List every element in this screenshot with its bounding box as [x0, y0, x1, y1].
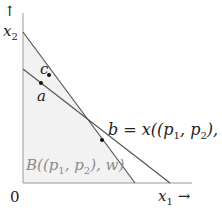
y-axis-label: x2	[3, 24, 18, 42]
point-c-label: c	[40, 62, 48, 77]
budget-set-label: B((p1, p2), w)	[26, 158, 124, 176]
x-axis-label: x1 →	[158, 189, 190, 207]
point-a-label: a	[37, 89, 46, 104]
y-axis-arrow-icon: ↑	[4, 4, 16, 18]
point-b	[100, 138, 104, 142]
point-b-label: b = x((p1, p2), w)	[108, 122, 222, 141]
x-axis-arrow-icon: →	[178, 187, 191, 205]
point-a	[39, 81, 43, 85]
diagram-canvas	[0, 0, 222, 211]
origin-label: 0	[10, 190, 20, 205]
